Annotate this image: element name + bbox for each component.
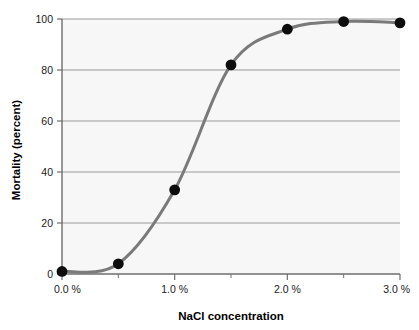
y-tick-label: 40 bbox=[41, 166, 53, 178]
x-axis-title: NaCl concentration bbox=[178, 310, 283, 322]
y-tick-label: 80 bbox=[41, 64, 53, 76]
plot-area-background bbox=[62, 19, 400, 274]
y-tick-label: 60 bbox=[41, 115, 53, 127]
mortality-vs-nacl-chart: 020406080100 0.0 %1.0 %2.0 %3.0 % NaCl c… bbox=[0, 0, 419, 330]
data-point bbox=[395, 17, 406, 28]
data-point bbox=[338, 16, 349, 27]
x-tick-label: 3.0 % bbox=[383, 283, 410, 295]
data-point bbox=[282, 24, 293, 35]
x-tick-label: 2.0 % bbox=[274, 283, 301, 295]
x-tick-label: 1.0 % bbox=[161, 283, 188, 295]
chart-container: 020406080100 0.0 %1.0 %2.0 %3.0 % NaCl c… bbox=[0, 0, 419, 330]
x-tick-label: 0.0 % bbox=[54, 283, 81, 295]
y-axis-title: Mortality (percent) bbox=[10, 100, 22, 200]
data-point bbox=[113, 258, 124, 269]
data-point bbox=[226, 60, 237, 71]
data-point bbox=[169, 184, 180, 195]
y-tick-label: 20 bbox=[41, 217, 53, 229]
data-point bbox=[57, 266, 68, 277]
y-tick-label: 100 bbox=[35, 13, 53, 25]
y-tick-label: 0 bbox=[47, 268, 53, 280]
